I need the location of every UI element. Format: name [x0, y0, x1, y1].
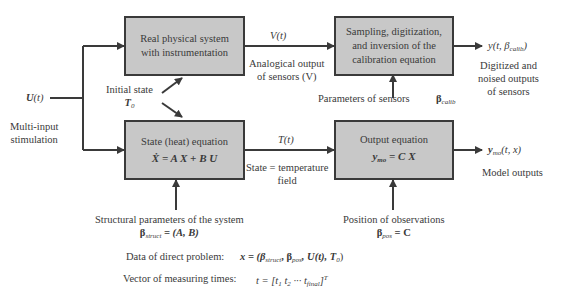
output-equation-title: Output equation: [360, 133, 428, 147]
t-signal-label: T(t): [278, 133, 294, 146]
state-equation-box: State (heat) equation Ẋ = A X + B U: [124, 120, 245, 180]
ymo-output-label: ymo(t, x): [488, 143, 521, 160]
structural-parameters-label: Structural parameters of the system βstr…: [95, 213, 244, 243]
position-observations-label: Position of observations βpos = C: [343, 213, 445, 243]
initial-state-label: Initial state T0: [106, 83, 153, 113]
state-equation-title: State (heat) equation: [141, 135, 228, 149]
input-signal-label: U(t): [26, 91, 44, 104]
sampling-box: Sampling, digitization, and inversion of…: [334, 16, 454, 76]
sampling-line3: calibration equation: [352, 53, 436, 67]
physical-system-line2: with instrumentation: [141, 46, 228, 60]
physical-system-line1: Real physical system: [140, 32, 229, 46]
v-signal-label: V(t): [270, 29, 286, 42]
state-equation-formula: Ẋ = A X + B U: [152, 151, 217, 165]
ymo-output-description: Model outputs: [482, 166, 543, 179]
output-equation-formula: ymo = C X: [372, 149, 415, 167]
sensor-parameters-label: Parameters of sensors: [318, 92, 410, 105]
v-signal-description: Analogical output of sensors (V): [249, 57, 325, 83]
diagram: Real physical system with instrumentatio…: [0, 0, 561, 301]
sampling-line2: and inversion of the: [352, 39, 436, 53]
beta-calib-label: βcalib: [436, 92, 456, 109]
y-output-description: Digitized and noised outputs of sensors: [478, 59, 539, 98]
measuring-times-formula: t = [t1 t2 ··· tfinal]T: [256, 272, 328, 291]
y-output-label: y(t, βcalib): [488, 39, 527, 56]
sampling-line1: Sampling, digitization,: [346, 25, 442, 39]
t-signal-description: State = temperature field: [246, 161, 328, 187]
input-description: Multi-input stimulation: [10, 120, 58, 146]
direct-problem-formula: x = (βstruct, βpos, U(t), T0): [240, 250, 343, 267]
output-equation-box: Output equation ymo = C X: [334, 120, 454, 180]
measuring-times-label: Vector of measuring times:: [123, 272, 236, 285]
physical-system-box: Real physical system with instrumentatio…: [124, 16, 245, 76]
direct-problem-label: Data of direct problem:: [126, 250, 224, 263]
